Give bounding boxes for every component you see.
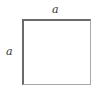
left-side-label: a: [6, 46, 13, 57]
square-shape: [22, 19, 91, 85]
top-side-label: a: [52, 4, 59, 15]
